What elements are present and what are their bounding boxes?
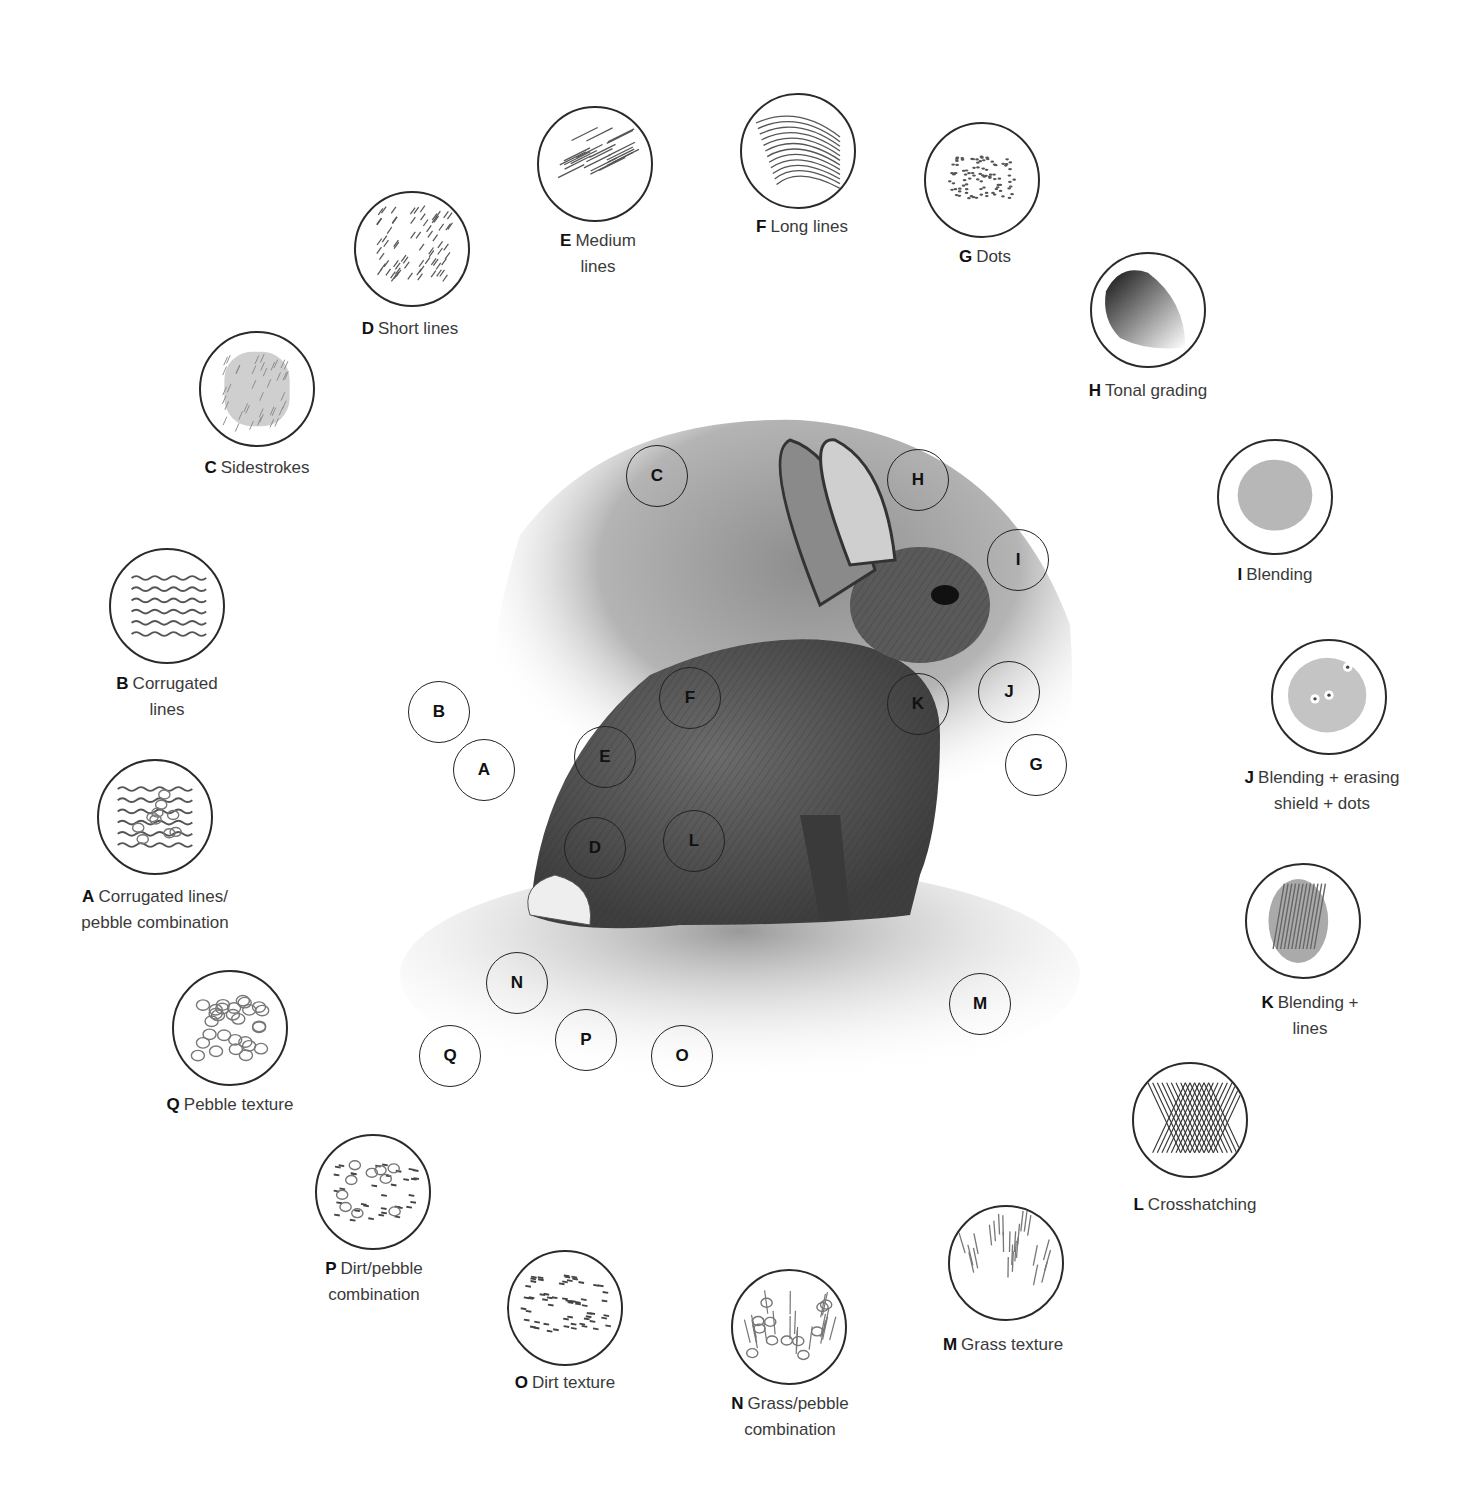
swatch-e [537,106,653,222]
label-letter: B [116,674,128,693]
label-letter: N [731,1394,743,1413]
swatch-k [1245,863,1361,979]
label-text: Medium [575,231,635,250]
swatch-m [948,1205,1064,1321]
label-letter: Q [167,1095,180,1114]
label-letter: O [515,1373,528,1392]
marker-d: D [564,817,626,879]
label-letter: I [1238,565,1243,584]
label-letter: H [1089,381,1101,400]
dirt-texture-icon [509,1252,621,1364]
label-text: Short lines [378,319,458,338]
label-j: JBlending + erasingshield + dots [1245,765,1400,817]
label-text: Sidestrokes [221,458,310,477]
label-text-line2: pebble combination [81,910,228,936]
swatch-c [199,331,315,447]
marker-n: N [486,952,548,1014]
short-lines-texture-icon [356,193,468,305]
label-text: Blending [1246,565,1312,584]
blending-lines-texture-icon [1247,865,1359,977]
label-text: Grass/pebble [748,1394,849,1413]
label-letter: A [82,887,94,906]
label-text-line2: lines [116,697,217,723]
label-text-line2: combination [731,1417,848,1443]
label-i: IBlending [1238,562,1313,588]
dirt-pebble-texture-icon [317,1136,429,1248]
marker-e: E [574,726,636,788]
label-letter: C [204,458,216,477]
dots-texture-icon [926,124,1038,236]
swatch-q [172,970,288,1086]
corrugated-pebble-texture-icon [99,761,211,873]
label-text: Blending + erasing [1258,768,1399,787]
swatch-j [1271,639,1387,755]
label-letter: K [1261,993,1273,1012]
label-c: CSidestrokes [204,455,309,481]
medium-lines-texture-icon [539,108,651,220]
marker-a: A [453,739,515,801]
blending-erasing-texture-icon [1273,641,1385,753]
marker-g: G [1005,734,1067,796]
pebbles-texture-icon [174,972,286,1084]
label-d: DShort lines [362,316,459,342]
marker-j: J [978,661,1040,723]
swatch-a [97,759,213,875]
label-letter: E [560,231,571,250]
long-lines-texture-icon [742,95,854,207]
marker-o: O [651,1025,713,1087]
swatch-b [109,548,225,664]
label-letter: P [325,1259,336,1278]
label-e: EMediumlines [560,228,636,280]
label-text: Long lines [770,217,848,236]
crosshatch-texture-icon [1134,1064,1246,1176]
label-text: Crosshatching [1148,1195,1257,1214]
label-letter: M [943,1335,957,1354]
label-m: MGrass texture [943,1332,1063,1358]
marker-k: K [887,673,949,735]
sidestrokes-texture-icon [201,333,313,445]
label-text: Dirt/pebble [341,1259,423,1278]
label-letter: F [756,217,766,236]
grass-pebble-texture-icon [733,1271,845,1383]
label-text: Corrugated [133,674,218,693]
label-text-line2: combination [325,1282,423,1308]
grass-texture-icon [950,1207,1062,1319]
swatch-h [1090,252,1206,368]
marker-l: L [663,810,725,872]
label-h: HTonal grading [1089,378,1207,404]
label-k: KBlending +lines [1261,990,1358,1042]
label-text-line2: lines [1261,1016,1358,1042]
marker-b: B [408,681,470,743]
label-text: Grass texture [961,1335,1063,1354]
tonal-grading-texture-icon [1092,254,1204,366]
label-text-line2: shield + dots [1245,791,1400,817]
label-letter: G [959,247,972,266]
swatch-g [924,122,1040,238]
label-q: QPebble texture [167,1092,294,1118]
label-a: ACorrugated lines/pebble combination [81,884,228,936]
swatch-d [354,191,470,307]
marker-h: H [887,449,949,511]
marker-i: I [987,529,1049,591]
swatch-p [315,1134,431,1250]
label-letter: J [1245,768,1254,787]
label-letter: L [1133,1195,1143,1214]
label-text-line2: lines [560,254,636,280]
label-text: Dots [976,247,1011,266]
label-p: PDirt/pebblecombination [325,1256,423,1308]
swatch-f [740,93,856,209]
label-b: BCorrugatedlines [116,671,217,723]
technique-diagram: ACorrugated lines/pebble combinationABCo… [0,0,1461,1511]
swatch-o [507,1250,623,1366]
marker-m: M [949,973,1011,1035]
marker-q: Q [419,1025,481,1087]
marker-c: C [626,445,688,507]
label-text: Blending + [1278,993,1359,1012]
label-g: GDots [959,244,1011,270]
corrugated-texture-icon [111,550,223,662]
label-n: NGrass/pebblecombination [731,1391,848,1443]
label-text: Tonal grading [1105,381,1207,400]
label-f: FLong lines [756,214,848,240]
label-l: LCrosshatching [1133,1192,1256,1218]
label-o: ODirt texture [515,1370,615,1396]
